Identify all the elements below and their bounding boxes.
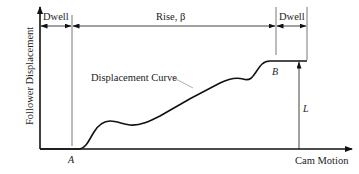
point-b-label: B (272, 66, 278, 77)
dwell-left-label: Dwell (43, 11, 69, 22)
curve-label: Displacement Curve (91, 72, 177, 83)
x-axis-label: Cam Motion (295, 155, 349, 166)
y-axis-label: Follower Displacement (24, 27, 35, 125)
lift-label: L (302, 103, 309, 114)
displacement-diagram: Dwell Rise, β Dwell Displacement Curve A… (0, 0, 359, 174)
point-a-label: A (67, 154, 75, 165)
dwell-right-label: Dwell (279, 11, 305, 22)
rise-label: Rise, β (156, 11, 185, 22)
